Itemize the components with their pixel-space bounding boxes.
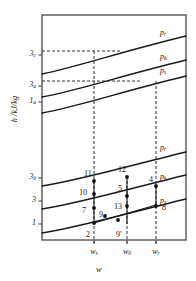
state-point-12 <box>125 175 129 179</box>
y-tick-label-4: 3 <box>14 195 36 204</box>
process-segments <box>94 177 156 224</box>
x-tick-label-1: w0 <box>115 247 139 256</box>
state-point-13 <box>125 204 129 208</box>
state-point-2 <box>92 221 96 225</box>
state-point-7 <box>92 206 96 210</box>
isobar-p_s_top <box>42 76 186 113</box>
state-point-label-10: 10 <box>79 188 87 197</box>
state-point-label-5: 5 <box>118 184 122 193</box>
state-point-label-11: 11 <box>84 169 92 178</box>
x-tick-label-0: ws <box>82 247 106 256</box>
isobar-label-p_r_low: pr <box>160 143 166 152</box>
state-point-label-12: 12 <box>118 165 126 174</box>
state-point-label-13: 13 <box>114 202 122 211</box>
state-point-label-8: 8 <box>162 203 166 212</box>
isobar-label-p_r_top: pr <box>160 28 166 37</box>
isobar-label-p_s_top: ps <box>160 66 166 75</box>
state-point-9 <box>103 214 107 218</box>
enthalpy-humidity-chart <box>0 0 196 281</box>
state-point-label-7: 7 <box>82 206 86 215</box>
state-point-label-9-prime: 9' <box>116 230 121 239</box>
state-point-4 <box>154 184 158 188</box>
x-tick-label-2: wr <box>144 247 168 256</box>
y-tick-label-2: 1a <box>14 96 36 105</box>
state-point-11 <box>92 179 96 183</box>
x-axis-title: w <box>96 264 102 274</box>
y-tick-label-1: 3a <box>14 80 36 89</box>
state-point-10 <box>92 192 96 196</box>
isobar-label-p_k_low: pk <box>160 172 166 181</box>
isobar-label-p_k_top: pk <box>160 52 166 61</box>
state-point-9-prime <box>116 218 120 222</box>
y-tick-label-0: 3c <box>14 49 36 58</box>
state-point-label-9: 9 <box>99 210 103 219</box>
state-point-label-2: 2 <box>86 230 90 239</box>
chart-container: h /kJ/kg w 3c3a1a3b31 wsw0wr prpkpsprpkp… <box>0 0 196 281</box>
y-tick-label-3: 3b <box>14 172 36 181</box>
process-seg-2-8 <box>94 205 156 223</box>
state-point-8 <box>154 204 158 208</box>
state-point-label-4: 4 <box>149 175 153 184</box>
y-tick-label-5: 1 <box>14 218 36 227</box>
state-point-5 <box>125 194 129 198</box>
